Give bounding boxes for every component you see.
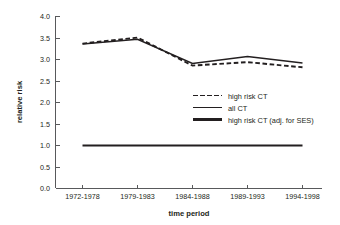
y-tick-label: 0.0 — [40, 184, 50, 193]
y-tick-marks — [56, 17, 60, 189]
x-tick-marks — [83, 185, 303, 189]
y-tick-label: 1.0 — [40, 141, 50, 150]
x-tick-label: 1994-1998 — [285, 192, 319, 201]
y-axis-title: relative risk — [15, 80, 24, 123]
data-series-layer — [83, 38, 303, 146]
line-chart-canvas: 4.0 3.5 3.0 2.5 2.0 1.5 1.0 0.5 0.0 1972… — [0, 0, 340, 225]
y-tick-label: 0.5 — [40, 163, 50, 172]
chart-legend: high risk CT all CT high risk CT (adj. f… — [193, 92, 314, 125]
x-axis-title: time period — [169, 209, 210, 218]
y-tick-label: 3.0 — [40, 55, 50, 64]
y-tick-label: 3.5 — [40, 34, 50, 43]
x-tick-label: 1972-1978 — [65, 192, 99, 201]
legend-label: high risk CT (adj. for SES) — [228, 116, 314, 125]
y-tick-labels: 4.0 3.5 3.0 2.5 2.0 1.5 1.0 0.5 0.0 — [40, 12, 50, 193]
chart-figure: 4.0 3.5 3.0 2.5 2.0 1.5 1.0 0.5 0.0 1972… — [0, 0, 340, 225]
y-tick-label: 4.0 — [40, 12, 50, 21]
x-tick-label: 1979-1983 — [120, 192, 154, 201]
x-tick-labels: 1972-1978 1979-1983 1984-1988 1989-1993 … — [65, 192, 319, 201]
y-tick-label: 2.5 — [40, 77, 50, 86]
y-tick-label: 1.5 — [40, 120, 50, 129]
legend-label: high risk CT — [228, 92, 268, 101]
x-tick-label: 1989-1993 — [230, 192, 264, 201]
y-tick-label: 2.0 — [40, 98, 50, 107]
series-line — [83, 39, 303, 63]
x-tick-label: 1984-1988 — [175, 192, 209, 201]
legend-label: all CT — [228, 104, 248, 113]
